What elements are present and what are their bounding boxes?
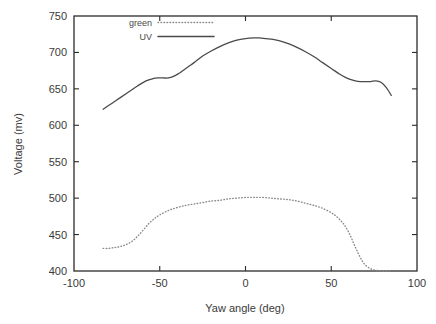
x-tick-label: 100: [408, 277, 426, 289]
x-tick-label: -100: [63, 277, 85, 289]
x-axis-tick-labels: -100-50050100: [63, 277, 426, 289]
x-tick-label: 0: [242, 277, 248, 289]
legend-label-green: green: [129, 18, 152, 28]
y-axis-tick-labels: 400450500550600650700750: [49, 10, 67, 277]
series-line-uv: [103, 38, 391, 109]
chart-legend: green UV: [129, 18, 214, 42]
y-tick-label: 500: [49, 192, 67, 204]
y-tick-label: 400: [49, 265, 67, 277]
x-axis-ticks: [160, 16, 332, 271]
chart-container: -100-50050100 400450500550600650700750 g…: [0, 0, 436, 324]
legend-label-uv: UV: [139, 32, 152, 42]
y-tick-label: 600: [49, 119, 67, 131]
plot-frame: [74, 16, 417, 271]
y-tick-label: 550: [49, 156, 67, 168]
x-tick-label: -50: [152, 277, 168, 289]
series-line-green: [103, 197, 389, 271]
y-tick-label: 450: [49, 229, 67, 241]
x-tick-label: 50: [325, 277, 337, 289]
data-series-layer: [103, 38, 391, 271]
x-axis-title: Yaw angle (deg): [205, 302, 284, 314]
y-tick-label: 700: [49, 46, 67, 58]
y-axis-ticks: [74, 52, 417, 234]
y-axis-title: Voltage (mv): [12, 113, 24, 175]
y-tick-label: 750: [49, 10, 67, 22]
y-tick-label: 650: [49, 83, 67, 95]
chart-plot: -100-50050100 400450500550600650700750 g…: [0, 0, 436, 324]
